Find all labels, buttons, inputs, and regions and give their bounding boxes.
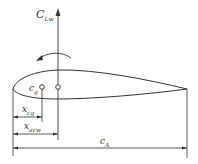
cg-marker	[40, 85, 45, 90]
ac-marker	[56, 85, 61, 90]
moment-arrowhead	[36, 55, 43, 61]
airfoil-diagram	[0, 0, 198, 164]
x-cg-label: xcg	[22, 105, 34, 116]
moment-arc	[38, 53, 71, 59]
cg-label: cg	[29, 84, 38, 95]
lift-label: CLw	[36, 9, 54, 22]
chord-label: cA	[100, 137, 109, 148]
x-acw-label: xacw	[24, 122, 41, 133]
airfoil-outline	[13, 70, 187, 99]
lift-arrowhead	[56, 8, 61, 16]
